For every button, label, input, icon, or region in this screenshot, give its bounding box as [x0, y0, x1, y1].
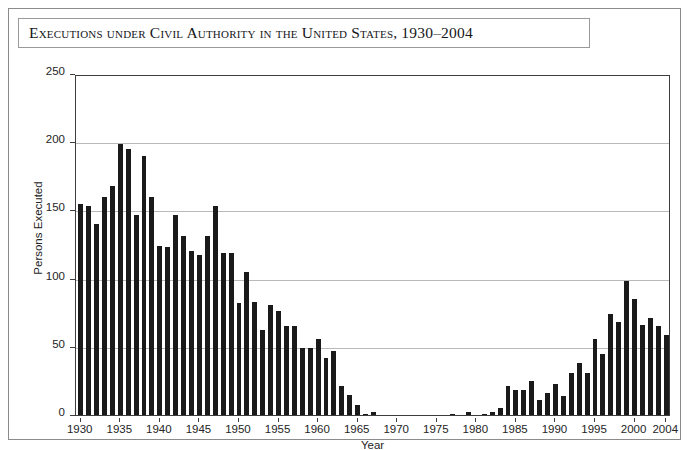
- x-tick-label-1985: 1985: [502, 423, 528, 435]
- bar-1958: [300, 348, 305, 415]
- bar-1987: [529, 381, 534, 415]
- bar-1945: [197, 255, 202, 415]
- bar-1989: [545, 393, 550, 415]
- bar-1962: [331, 351, 336, 415]
- bar-1944: [189, 251, 194, 415]
- bar-1954: [268, 305, 273, 415]
- bar-1948: [221, 253, 226, 415]
- bar-1959: [308, 348, 313, 415]
- x-tick-label-1980: 1980: [463, 423, 489, 435]
- x-tick-mark-1985: [515, 418, 516, 422]
- bar-1996: [600, 354, 605, 415]
- bar-1956: [284, 326, 289, 415]
- x-tick-mark-1975: [436, 418, 437, 422]
- x-tick-mark-1980: [475, 418, 476, 422]
- y-tick-label-0: 0: [13, 406, 65, 418]
- plot-area-wrapper: [75, 75, 670, 416]
- x-axis-title: Year: [75, 439, 670, 450]
- bar-1964: [347, 395, 352, 415]
- bar-1943: [181, 236, 186, 415]
- x-tick-mark-2000: [634, 418, 635, 422]
- bar-1967: [371, 412, 376, 415]
- x-tick-label-1965: 1965: [344, 423, 370, 435]
- x-tick-label-1975: 1975: [423, 423, 449, 435]
- bar-1942: [173, 215, 178, 416]
- bar-1953: [260, 330, 265, 415]
- bar-1930: [78, 204, 83, 415]
- x-tick-label-1995: 1995: [581, 423, 607, 435]
- x-tick-mark-1930: [80, 418, 81, 422]
- x-tick-mark-1995: [594, 418, 595, 422]
- y-axis-title-label: Persons Executed: [32, 128, 44, 328]
- bar-1957: [292, 326, 297, 415]
- bar-1979: [466, 412, 471, 415]
- bar-1946: [205, 236, 210, 415]
- bar-1935: [118, 144, 123, 415]
- bar-1937: [134, 215, 139, 416]
- bar-1985: [513, 390, 518, 415]
- x-tick-label-1955: 1955: [265, 423, 291, 435]
- bar-1993: [577, 363, 582, 415]
- bar-1992: [569, 373, 574, 415]
- x-tick-label-1950: 1950: [225, 423, 251, 435]
- bar-1960: [316, 339, 321, 415]
- bar-2003: [656, 326, 661, 415]
- bar-1966: [363, 414, 368, 415]
- chart-title-box: Executions under Civil Authority in the …: [18, 18, 590, 48]
- x-tick-mark-1960: [317, 418, 318, 422]
- figure-frame: Executions under Civil Authority in the …: [8, 8, 681, 440]
- bar-1949: [229, 253, 234, 415]
- bar-1933: [102, 197, 107, 415]
- bar-1999: [624, 281, 629, 415]
- bar-1998: [616, 322, 621, 415]
- x-tick-mark-1950: [238, 418, 239, 422]
- bar-1991: [561, 396, 566, 415]
- bar-1938: [142, 156, 147, 415]
- page-title: Executions under Civil Authority in the …: [19, 24, 473, 42]
- x-tick-mark-1945: [198, 418, 199, 422]
- bar-series: [76, 76, 669, 415]
- x-tick-mark-1955: [278, 418, 279, 422]
- bar-1951: [244, 272, 249, 415]
- x-tick-label-1935: 1935: [107, 423, 133, 435]
- x-tick-mark-1940: [159, 418, 160, 422]
- bar-1955: [276, 311, 281, 415]
- x-tick-label-1945: 1945: [186, 423, 212, 435]
- bar-1990: [553, 384, 558, 415]
- x-axis-labels: 1930193519401945195019551960196519701975…: [75, 418, 670, 438]
- bar-2000: [632, 299, 637, 415]
- x-tick-mark-1970: [396, 418, 397, 422]
- bar-2001: [640, 325, 645, 415]
- bar-1939: [149, 197, 154, 415]
- bar-1947: [213, 206, 218, 415]
- y-tick-label-50: 50: [13, 338, 65, 350]
- y-axis-title: Persons Executed: [31, 129, 45, 329]
- bar-1997: [608, 314, 613, 415]
- bar-1941: [165, 247, 170, 415]
- bar-1950: [237, 303, 242, 415]
- bar-1977: [450, 414, 455, 415]
- bar-1995: [593, 339, 598, 415]
- bar-1994: [585, 373, 590, 415]
- x-tick-label-1990: 1990: [542, 423, 568, 435]
- bar-2004: [664, 335, 669, 415]
- y-tick-label-250: 250: [13, 65, 65, 77]
- bar-1965: [355, 405, 360, 415]
- x-tick-label-2004: 2004: [652, 423, 678, 435]
- bar-1931: [86, 206, 91, 415]
- x-tick-mark-1990: [554, 418, 555, 422]
- bar-1963: [339, 386, 344, 415]
- bar-1932: [94, 224, 99, 415]
- x-tick-label-1930: 1930: [67, 423, 93, 435]
- bar-1988: [537, 400, 542, 415]
- bar-1981: [482, 414, 487, 415]
- plot-area: [75, 75, 670, 416]
- bar-1982: [490, 412, 495, 415]
- x-tick-label-1960: 1960: [304, 423, 330, 435]
- bar-1961: [324, 358, 329, 415]
- bar-1934: [110, 186, 115, 415]
- x-tick-label-1970: 1970: [383, 423, 409, 435]
- bar-1936: [126, 149, 131, 415]
- x-tick-mark-2004: [665, 418, 666, 422]
- bar-1940: [157, 246, 162, 415]
